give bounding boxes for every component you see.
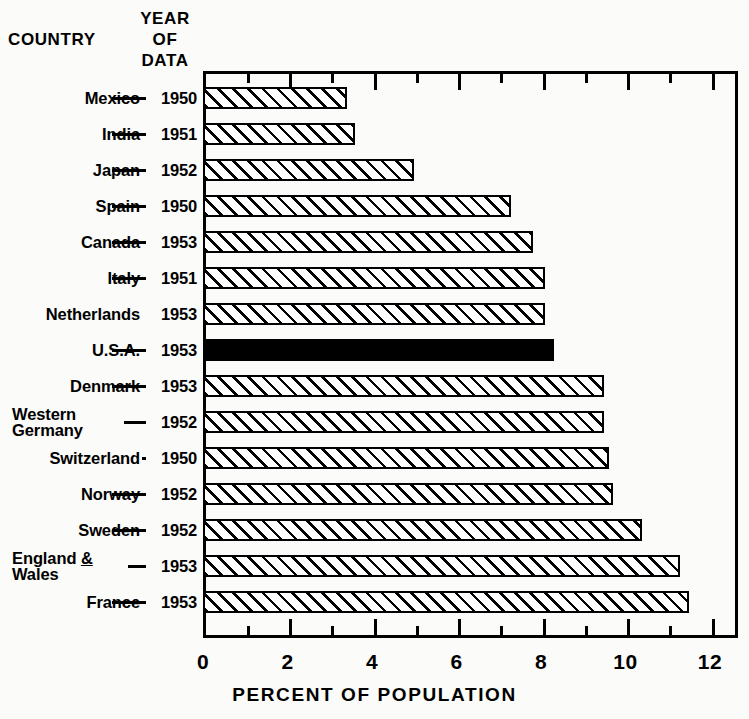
x-tick-label: 2 <box>281 650 293 674</box>
bar <box>203 123 355 145</box>
x-tick-label: 0 <box>197 650 209 674</box>
label-connector-dash <box>112 205 146 208</box>
bar <box>203 159 414 181</box>
category-row: Switzerland1950 <box>0 440 203 476</box>
year-label: 1953 <box>161 341 197 360</box>
label-connector-dash <box>112 349 146 352</box>
x-tick-label: 8 <box>535 650 547 674</box>
category-row: France1953 <box>0 584 203 620</box>
bar <box>203 519 642 541</box>
year-label: 1951 <box>161 269 197 288</box>
label-connector-dash <box>112 385 146 388</box>
label-connector-dash <box>124 421 146 424</box>
x-tick-label: 10 <box>613 650 637 674</box>
category-row: Japan1952 <box>0 152 203 188</box>
category-row: Spain1950 <box>0 188 203 224</box>
category-row: Norway1952 <box>0 476 203 512</box>
column-header-year-of-data: YEAR OF DATA <box>128 8 202 71</box>
category-row: Denmark1953 <box>0 368 203 404</box>
category-row: Canada1953 <box>0 224 203 260</box>
x-tick-label: 12 <box>698 650 722 674</box>
year-header-line-2: OF <box>128 29 202 50</box>
year-label: 1950 <box>161 89 197 108</box>
bar <box>203 411 604 433</box>
bar <box>203 591 689 613</box>
country-label: England &Wales <box>12 550 93 583</box>
bar-series <box>203 71 738 638</box>
category-row: WesternGermany1952 <box>0 404 203 440</box>
label-connector-dash <box>128 565 146 568</box>
year-label: 1952 <box>161 485 197 504</box>
category-row: England &Wales1953 <box>0 548 203 584</box>
category-row: India1951 <box>0 116 203 152</box>
country-label: Switzerland <box>49 450 140 466</box>
year-label: 1950 <box>161 197 197 216</box>
label-connector-dash <box>112 277 146 280</box>
category-row: Netherlands1953 <box>0 296 203 332</box>
country-label: WesternGermany <box>12 406 83 439</box>
bar <box>203 267 545 289</box>
bar <box>203 303 545 325</box>
year-label: 1952 <box>161 413 197 432</box>
year-label: 1950 <box>161 449 197 468</box>
x-tick-label: 6 <box>450 650 462 674</box>
category-row: U.S.A.1953 <box>0 332 203 368</box>
bar <box>203 87 347 109</box>
year-label: 1952 <box>161 161 197 180</box>
category-row: Italy1951 <box>0 260 203 296</box>
bar-highlighted <box>203 339 554 361</box>
year-label: 1953 <box>161 305 197 324</box>
year-header-line-1: YEAR <box>128 8 202 29</box>
bar <box>203 375 604 397</box>
category-label-column: Mexico1950India1951Japan1952Spain1950Can… <box>0 71 203 638</box>
label-connector-dash <box>112 97 146 100</box>
bar <box>203 195 511 217</box>
label-connector-dash <box>142 457 146 460</box>
chart-figure: COUNTRY YEAR OF DATA Mexico1950India1951… <box>0 0 749 719</box>
column-header-country: COUNTRY <box>8 30 96 50</box>
label-connector-dash <box>112 169 146 172</box>
bar <box>203 447 609 469</box>
category-row: Sweden1952 <box>0 512 203 548</box>
year-label: 1953 <box>161 557 197 576</box>
year-label: 1953 <box>161 233 197 252</box>
year-label: 1953 <box>161 593 197 612</box>
bar <box>203 483 613 505</box>
label-connector-dash <box>112 529 146 532</box>
x-tick-label: 4 <box>366 650 378 674</box>
year-label: 1952 <box>161 521 197 540</box>
label-connector-dash <box>112 241 146 244</box>
label-connector-dash <box>112 601 146 604</box>
year-label: 1951 <box>161 125 197 144</box>
bar <box>203 231 533 253</box>
category-row: Mexico1950 <box>0 80 203 116</box>
bar <box>203 555 680 577</box>
year-label: 1953 <box>161 377 197 396</box>
country-label: Netherlands <box>46 306 140 322</box>
label-connector-dash <box>112 133 146 136</box>
year-header-line-3: DATA <box>128 50 202 71</box>
x-axis-title: PERCENT OF POPULATION <box>0 684 749 706</box>
label-connector-dash <box>112 493 146 496</box>
